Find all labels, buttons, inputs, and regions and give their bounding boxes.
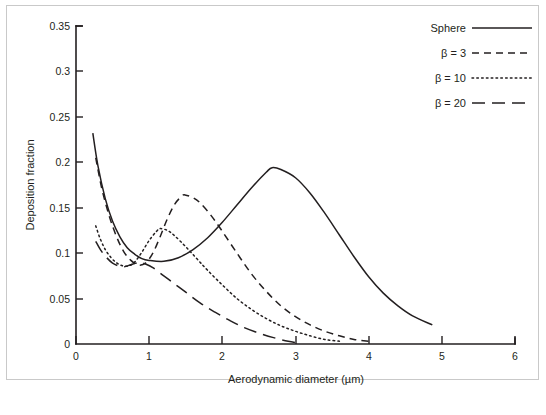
figure-container: 0.35 0.3 0.25 0.2 0.15 0.1 0.05 0 0 1 2 …: [0, 0, 546, 415]
y-tick-label-0.2: 0.2: [55, 156, 70, 168]
y-axis-tick-labels: 0.35 0.3 0.25 0.2 0.15 0.1 0.05 0: [50, 20, 71, 350]
x-tick-label-6: 6: [512, 350, 518, 362]
x-tick-label-3: 3: [293, 350, 299, 362]
legend-label-beta3: β = 3: [441, 47, 466, 59]
legend-label-beta20: β = 20: [435, 97, 466, 109]
x-axis-ticks: [76, 336, 515, 344]
legend-label-sphere: Sphere: [431, 22, 466, 34]
x-tick-label-1: 1: [146, 350, 152, 362]
series-beta10-line: [96, 226, 340, 341]
x-tick-label-4: 4: [366, 350, 372, 362]
chart-canvas: 0.35 0.3 0.25 0.2 0.15 0.1 0.05 0 0 1 2 …: [0, 0, 546, 415]
y-tick-label-0.05: 0.05: [50, 293, 71, 305]
y-tick-label-0: 0: [64, 338, 70, 350]
legend: Sphere β = 3 β = 10 β = 20: [431, 22, 532, 109]
series-sphere-line: [93, 133, 432, 325]
x-tick-label-2: 2: [219, 350, 225, 362]
y-tick-label-0.25: 0.25: [50, 111, 71, 123]
data-series-group: [93, 133, 432, 343]
x-tick-label-0: 0: [73, 350, 79, 362]
y-axis-title: Deposition fraction: [24, 139, 36, 230]
y-tick-label-0.1: 0.1: [55, 247, 70, 259]
y-tick-label-0.35: 0.35: [50, 20, 71, 32]
series-beta3-line: [96, 158, 369, 342]
series-beta20-line: [96, 241, 299, 343]
x-axis-title: Aerodynamic diameter (µm): [228, 373, 364, 385]
y-tick-label-0.3: 0.3: [55, 65, 70, 77]
y-tick-label-0.15: 0.15: [50, 202, 71, 214]
y-axis-ticks: [76, 26, 83, 299]
x-tick-label-5: 5: [439, 350, 445, 362]
legend-label-beta10: β = 10: [435, 72, 466, 84]
x-axis-tick-labels: 0 1 2 3 4 5 6: [73, 350, 518, 362]
